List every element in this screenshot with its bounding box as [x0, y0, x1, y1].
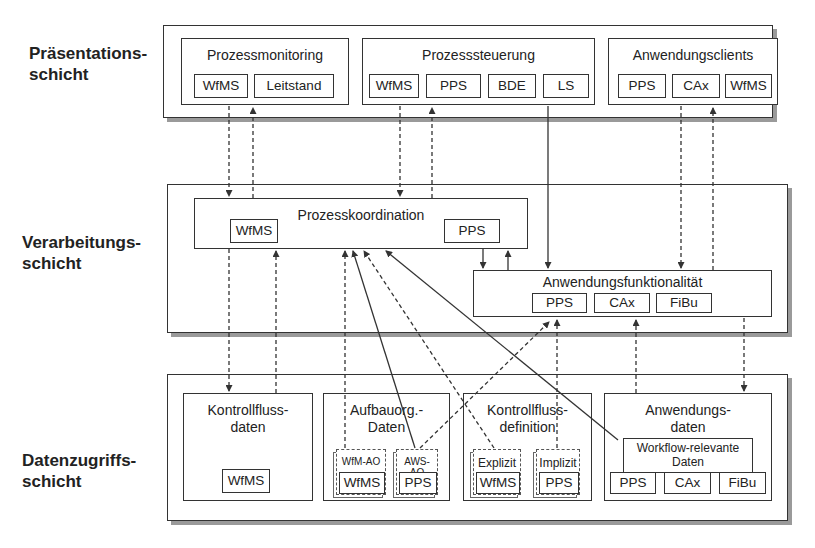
- chip-wfms: WfMS: [725, 74, 772, 98]
- chip-pps: PPS: [610, 472, 656, 494]
- layer-label-data-access: Datenzugriffs- schicht: [22, 450, 136, 492]
- chip-wfms: WfMS: [476, 472, 520, 494]
- kontrollflussdefinition-box: Kontrollfluss- definition Explizit WfMS …: [463, 393, 592, 501]
- layer-label-processing: Verarbeitungs- schicht: [22, 232, 141, 274]
- anwendungsclients-box: Anwendungsclients PPS CAx WfMS: [608, 38, 778, 105]
- anwendungsdaten-title: Anwendungs- daten: [605, 402, 771, 436]
- anwendungsdaten-box: Anwendungs- daten Workflow-relevante Dat…: [604, 393, 772, 501]
- layer-label-presentation: Präsentations- schicht: [29, 43, 147, 85]
- chip-cax: CAx: [594, 293, 650, 313]
- chip-bde: BDE: [488, 74, 536, 98]
- chip-wfms: WfMS: [369, 74, 419, 98]
- chip-ls: LS: [543, 74, 589, 98]
- wfm-ao-box: WfM-AO WfMS: [336, 449, 386, 495]
- prozesskoordination-box: Prozesskoordination WfMS PPS: [194, 198, 528, 249]
- prozesssteuerung-title: Prozesssteuerung: [363, 47, 594, 64]
- prozessmonitoring-box: Prozessmonitoring WfMS Leitstand: [181, 38, 349, 105]
- chip-wfms: WfMS: [230, 219, 278, 243]
- chip-fibu: FiBu: [719, 472, 766, 494]
- chip-cax: CAx: [672, 74, 720, 98]
- chip-pps: PPS: [444, 219, 500, 243]
- chip-pps: PPS: [399, 472, 437, 494]
- explizit-label: Explizit: [474, 456, 520, 470]
- anwendungsclients-title: Anwendungsclients: [609, 47, 777, 64]
- chip-wfms: WfMS: [222, 469, 270, 493]
- chip-wfms: WfMS: [194, 74, 248, 98]
- aufbauorg-daten-title: Aufbauorg.- Daten: [324, 402, 449, 436]
- prozessmonitoring-title: Prozessmonitoring: [182, 47, 348, 64]
- chip-wfms: WfMS: [339, 472, 385, 494]
- kontrollflussdaten-box: Kontrollfluss- daten WfMS: [183, 393, 313, 501]
- aufbauorg-daten-box: Aufbauorg.- Daten WfM-AO WfMS AWS-AO PPS: [323, 393, 450, 501]
- chip-pps: PPS: [532, 293, 587, 313]
- implizit-label: Implizit: [537, 456, 579, 470]
- anwendungsfunktionalitaet-box: Anwendungsfunktionalität PPS CAx FiBu: [473, 270, 772, 317]
- kontrollflussdaten-title: Kontrollfluss- daten: [184, 402, 312, 436]
- workflow-relevante-daten-title: Workflow-relevante Daten: [624, 441, 752, 469]
- chip-cax: CAx: [664, 472, 711, 494]
- explizit-box: Explizit WfMS: [473, 449, 521, 495]
- kontrollflussdefinition-title: Kontrollfluss- definition: [464, 402, 591, 436]
- chip-pps: PPS: [426, 74, 481, 98]
- wfm-ao-label: WfM-AO: [337, 456, 385, 467]
- chip-pps: PPS: [539, 472, 579, 494]
- aws-ao-box: AWS-AO PPS: [396, 449, 438, 495]
- chip-pps: PPS: [618, 74, 666, 98]
- workflow-relevante-daten-box: Workflow-relevante Daten: [623, 438, 753, 473]
- chip-fibu: FiBu: [656, 293, 712, 313]
- prozesssteuerung-box: Prozesssteuerung WfMS PPS BDE LS: [362, 38, 595, 105]
- chip-leitstand: Leitstand: [254, 74, 334, 98]
- implizit-box: Implizit PPS: [536, 449, 580, 495]
- anwendungsfunktionalitaet-title: Anwendungsfunktionalität: [474, 274, 771, 291]
